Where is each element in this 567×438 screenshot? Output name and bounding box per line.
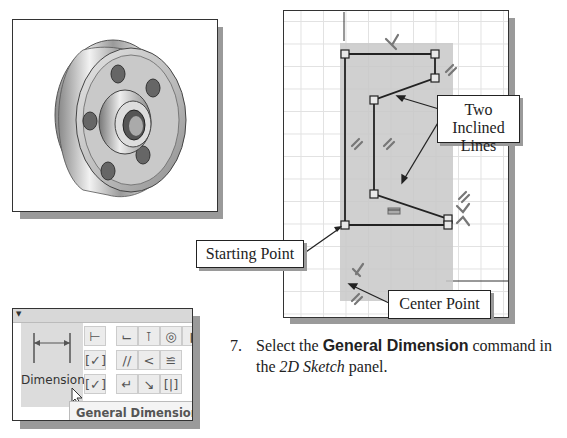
dimension-button[interactable]: Dimension (21, 323, 83, 407)
callout-inclined-lines: Two Inclined Lines (437, 95, 520, 143)
callout-inclined-lines-line1: Two Inclined (438, 101, 519, 137)
panel-header: ▼ (13, 309, 192, 323)
collinear-icon[interactable]: ↘ (138, 374, 160, 394)
panel-collapse-icon[interactable]: ▼ (16, 310, 21, 318)
sketch-ribbon-panel: ▼ Dimension ⊢ [✓] [✓] ⌙ ⊺ ◎ ▮ // < ≌ ↵ ↘… (12, 308, 193, 421)
coincident-icon[interactable]: ⊺ (138, 326, 160, 346)
auto-dimension-icon[interactable]: ⊢ (84, 326, 106, 346)
step-panel-name-1: 2D (280, 358, 300, 375)
step-command-name: General Dimension (323, 337, 469, 354)
sketch-drawing (284, 11, 508, 317)
perpendicular-icon[interactable]: ⌙ (116, 326, 138, 346)
instruction-step: 7. Select the General Dimension command … (230, 335, 560, 377)
sketch-canvas[interactable] (283, 10, 509, 318)
concentric-icon[interactable]: ◎ (160, 326, 182, 346)
callout-inclined-lines-line2: Lines (438, 137, 519, 155)
step-number: 7. (230, 335, 242, 356)
tooltip-label: General Dimension (76, 406, 193, 420)
callout-center-point: Center Point (388, 290, 491, 319)
symmetric-icon[interactable]: [|] (160, 374, 182, 394)
smooth-icon[interactable]: ↵ (116, 374, 138, 394)
step-suffix: panel. (345, 358, 388, 375)
show-constraints-all-icon[interactable]: [✓] (84, 374, 106, 394)
horizontal-icon[interactable]: ≌ (160, 350, 182, 370)
fix-icon[interactable]: ▮ (182, 326, 193, 346)
tangent-icon[interactable]: < (138, 350, 160, 370)
flywheel-part-image (13, 20, 217, 211)
perpendicular-constraint-icon (457, 217, 469, 225)
show-constraints-icon[interactable]: [✓] (84, 350, 106, 370)
step-body: Select the General Dimension command in … (256, 335, 560, 377)
parallel-icon[interactable]: // (116, 350, 138, 370)
dimension-icon (21, 329, 83, 369)
dimension-button-label: Dimension (21, 373, 83, 387)
part-image-frame (12, 19, 218, 212)
parallel-constraint-icon (459, 192, 469, 202)
horizontal-constraint-icon (388, 208, 400, 214)
step-panel-name-2: Sketch (303, 358, 345, 375)
step-prefix: Select the (256, 337, 323, 354)
callout-starting-point: Starting Point (196, 240, 304, 268)
perpendicular-constraint-icon (457, 204, 469, 212)
general-dimension-tooltip: General Dimension (D) (69, 401, 193, 421)
